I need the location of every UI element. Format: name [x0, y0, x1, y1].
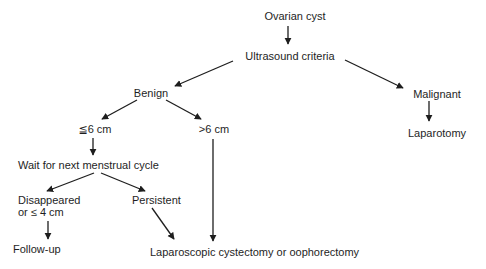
node-laparotomy: Laparotomy — [408, 127, 466, 139]
node-wait-menstrual-cycle: Wait for next menstrual cycle — [18, 159, 159, 171]
flowchart-ovarian-cyst: Ovarian cyst Ultrasound criteria Benign … — [0, 0, 486, 269]
node-disappeared-line1: Disappeared — [18, 194, 80, 206]
edge-wait-to-persistent — [101, 173, 145, 191]
node-gt-6cm: >6 cm — [199, 123, 229, 135]
node-le-6cm: ≦6 cm — [78, 123, 111, 135]
node-ultrasound-criteria: Ultrasound criteria — [245, 50, 334, 62]
node-ovarian-cyst: Ovarian cyst — [264, 10, 325, 22]
node-persistent: Persistent — [132, 194, 181, 206]
node-disappeared-line2: or ≤ 4 cm — [18, 206, 80, 218]
node-benign: Benign — [134, 87, 168, 99]
edge-benign-to-gt6cm — [166, 100, 201, 119]
node-follow-up: Follow-up — [13, 243, 61, 255]
edge-persistent-to-laparoscopic — [152, 208, 174, 239]
edge-benign-to-le6cm — [102, 100, 137, 119]
node-malignant: Malignant — [413, 88, 461, 100]
edge-wait-to-disappeared — [47, 173, 94, 191]
edge-ultrasound-to-malignant — [345, 60, 403, 88]
node-disappeared: Disappeared or ≤ 4 cm — [18, 194, 80, 218]
edge-ultrasound-to-benign — [175, 61, 233, 86]
node-laparoscopic-cystectomy: Laparoscopic cystectomy or oophorectomy — [150, 246, 359, 258]
